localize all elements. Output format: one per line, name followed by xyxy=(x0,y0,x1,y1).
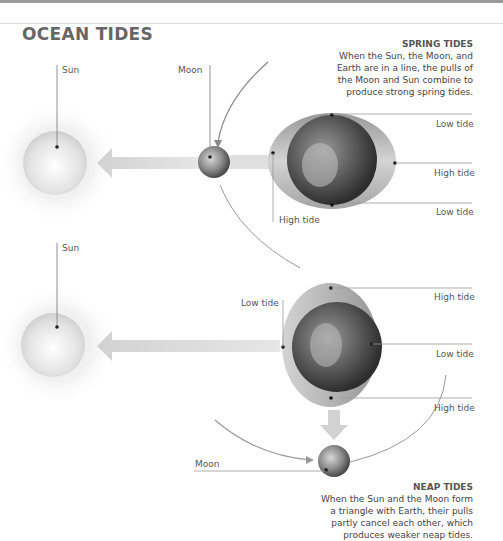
neap-low-tide-left-label: Low tide xyxy=(241,298,279,308)
neap-tides-heading: NEAP TIDES xyxy=(253,481,473,493)
spring-sun-label: Sun xyxy=(62,65,79,75)
spring-high-tide-left-label: High tide xyxy=(279,215,320,225)
spring-tides-heading: SPRING TIDES xyxy=(263,38,473,50)
neap-low-tide-right-label: Low tide xyxy=(436,349,474,359)
spring-desc-line: When the Sun, the Moon, and xyxy=(263,50,473,62)
neap-desc-line: produces weaker neap tides. xyxy=(253,529,473,541)
neap-desc-line: a triangle with Earth, their pulls xyxy=(253,505,473,517)
neap-tides-description: NEAP TIDES When the Sun and the Moon for… xyxy=(253,481,473,541)
spring-low-tide-bottom-label: Low tide xyxy=(436,207,474,217)
spring-desc-line: the Moon and Sun combine to xyxy=(263,74,473,86)
neap-desc-line: partly cancel each other, which xyxy=(253,517,473,529)
neap-moon-label: Moon xyxy=(195,459,219,469)
neap-desc-line: When the Sun and the Moon form xyxy=(253,493,473,505)
spring-desc-line: produce strong spring tides. xyxy=(263,86,473,98)
neap-high-tide-bottom-label: High tide xyxy=(434,403,475,413)
spring-low-tide-top-label: Low tide xyxy=(436,119,474,129)
spring-desc-line: Earth are in a line, the pulls of xyxy=(263,62,473,74)
neap-high-tide-top-label: High tide xyxy=(434,292,475,302)
spring-moon-label: Moon xyxy=(178,65,202,75)
spring-tides-description: SPRING TIDES When the Sun, the Moon, and… xyxy=(263,38,473,98)
neap-tides-diagram xyxy=(0,243,472,477)
neap-sun-label: Sun xyxy=(62,243,79,253)
spring-high-tide-right-label: High tide xyxy=(434,168,475,178)
